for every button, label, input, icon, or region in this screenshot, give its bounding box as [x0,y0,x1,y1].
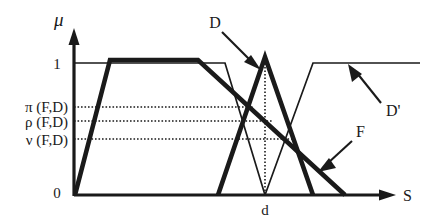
x-tick-label-d: d [261,202,269,218]
leader-line-d [222,32,252,62]
y-tick-label-one: 1 [53,56,61,72]
membership-function-diagram: μ 1 0 π (F,D) ρ (F,D) ν (F,D) d S D D' F [0,0,425,223]
thick-curves-group [75,57,345,195]
y-tick-label-zero: 0 [53,185,61,201]
thin-curves-group [74,63,420,195]
guide-lines-group [74,107,292,139]
x-axis-label: S [403,187,412,204]
axes-group [69,28,397,201]
leader-arrowhead-f [318,158,336,172]
y-marker-label-rho: ρ (F,D) [25,114,68,131]
curve-label-d-prime: D' [386,102,401,119]
leader-line-d-prime [357,73,381,103]
leader-line-f [328,141,352,163]
curve-label-f: F [356,123,365,140]
y-marker-label-nu: ν (F,D) [26,132,68,149]
curve-label-d: D [209,14,221,31]
y-axis-label: μ [53,9,64,30]
leader-arrowhead-d-prime [348,64,362,82]
y-axis-arrowhead [69,28,80,45]
plot-canvas: μ 1 0 π (F,D) ρ (F,D) ν (F,D) d S D D' F [0,0,425,223]
x-axis-arrowhead [379,190,396,201]
